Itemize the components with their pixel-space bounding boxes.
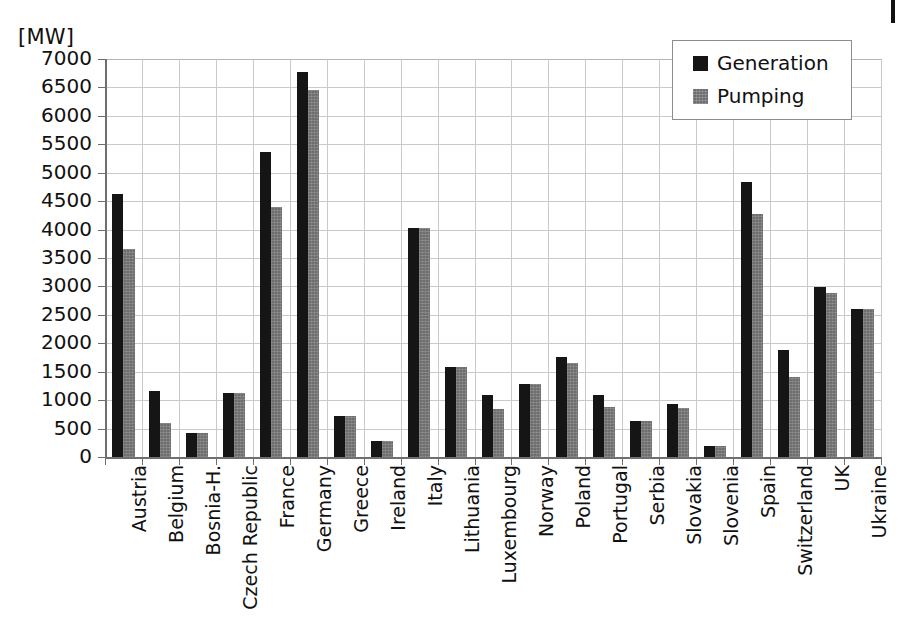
legend-label-generation: Generation bbox=[717, 53, 829, 73]
bar-group bbox=[260, 59, 282, 457]
x-axis-label-text: Poland bbox=[574, 465, 593, 528]
x-axis-label-text: Italy bbox=[426, 465, 445, 506]
x-axis-tick bbox=[659, 457, 660, 465]
bar-group bbox=[223, 59, 245, 457]
legend-item-generation: Generation bbox=[693, 53, 829, 73]
bar-group bbox=[556, 59, 578, 457]
chart-container: [MW] 70006500600055005000450040003500300… bbox=[0, 0, 906, 641]
x-axis-tick bbox=[770, 457, 771, 465]
bar-pumping bbox=[530, 384, 541, 457]
bar-generation bbox=[371, 441, 382, 457]
x-axis-tick bbox=[290, 457, 291, 465]
x-axis-label-text: Lithuania bbox=[463, 465, 482, 553]
bar-pumping bbox=[493, 409, 504, 457]
bar-generation bbox=[704, 446, 715, 457]
bar-generation bbox=[334, 416, 345, 458]
x-axis-label-text: Switzerland bbox=[796, 465, 815, 576]
y-axis-tick-label: 2500 bbox=[0, 304, 92, 324]
y-axis-tick-label: 500 bbox=[0, 418, 92, 438]
bar-generation bbox=[223, 393, 234, 457]
x-axis-label-text: Slovenia bbox=[722, 465, 741, 546]
x-axis-label-text: Ukraine bbox=[870, 465, 889, 538]
bar-group bbox=[408, 59, 430, 457]
bar-pumping bbox=[123, 249, 134, 457]
bar-generation bbox=[593, 395, 604, 457]
bar-pumping bbox=[715, 446, 726, 457]
x-axis-label-text: Portugal bbox=[611, 465, 630, 544]
gridline-vertical bbox=[881, 59, 882, 457]
bar-generation bbox=[186, 433, 197, 457]
x-axis-label-text: Belgium bbox=[167, 465, 186, 543]
chart-legend: Generation Pumping bbox=[672, 40, 852, 120]
x-axis-label-text: Czech Republic bbox=[241, 465, 260, 610]
bar-group bbox=[149, 59, 171, 457]
x-axis-tick bbox=[401, 457, 402, 465]
bar-pumping bbox=[567, 363, 578, 457]
bar-generation bbox=[408, 228, 419, 457]
y-axis-tick-label: 3500 bbox=[0, 247, 92, 267]
bar-pumping bbox=[308, 90, 319, 457]
bar-generation bbox=[112, 194, 123, 457]
bar-group bbox=[334, 59, 356, 457]
y-axis-tick-label: 4500 bbox=[0, 190, 92, 210]
y-axis-tick-label: 4000 bbox=[0, 219, 92, 239]
bar-pumping bbox=[678, 408, 689, 457]
bar-generation bbox=[630, 421, 641, 457]
bar-group bbox=[186, 59, 208, 457]
bar-group bbox=[112, 59, 134, 457]
x-axis-category-labels: AustriaBelgiumBosnia-H.Czech RepublicFra… bbox=[105, 465, 881, 641]
bar-group bbox=[851, 59, 873, 457]
x-axis-tick bbox=[253, 457, 254, 465]
x-axis-tick bbox=[475, 457, 476, 465]
legend-swatch-generation-icon bbox=[693, 56, 708, 71]
x-axis-label-text: Spain bbox=[759, 465, 778, 518]
bar-pumping bbox=[456, 367, 467, 457]
y-axis-tick-label: 3000 bbox=[0, 275, 92, 295]
y-axis-tick-label: 6500 bbox=[0, 76, 92, 96]
x-axis-label-text: Ireland bbox=[389, 465, 408, 531]
x-axis-tick bbox=[733, 457, 734, 465]
bar-group bbox=[445, 59, 467, 457]
bar-generation bbox=[482, 395, 493, 457]
x-axis-tick bbox=[585, 457, 586, 465]
bar-pumping bbox=[826, 293, 837, 457]
bar-pumping bbox=[604, 407, 615, 457]
bar-generation bbox=[519, 384, 530, 457]
x-axis-tick bbox=[548, 457, 549, 465]
legend-item-pumping: Pumping bbox=[693, 86, 805, 106]
x-axis-tick bbox=[142, 457, 143, 465]
x-axis-label-text: UK bbox=[833, 465, 852, 491]
y-axis-tick-label: 1500 bbox=[0, 361, 92, 381]
x-axis-label-text: Austria bbox=[130, 465, 149, 532]
bar-pumping bbox=[641, 421, 652, 457]
y-axis-tick-label: 0 bbox=[0, 446, 92, 466]
x-axis-label-text: Slovakia bbox=[685, 465, 704, 545]
legend-label-pumping: Pumping bbox=[717, 86, 805, 106]
bar-pumping bbox=[345, 416, 356, 458]
bar-group bbox=[482, 59, 504, 457]
y-axis-tick-label: 6000 bbox=[0, 105, 92, 125]
bar-group bbox=[519, 59, 541, 457]
page-scan-mark bbox=[891, 0, 895, 23]
x-axis-tick bbox=[844, 457, 845, 465]
bar-generation bbox=[149, 391, 160, 457]
x-axis-line bbox=[105, 457, 882, 459]
x-axis-label-text: Luxembourg bbox=[500, 465, 519, 583]
x-axis-label-text: France bbox=[278, 465, 297, 528]
bar-generation bbox=[556, 357, 567, 457]
y-axis-tick-label: 5500 bbox=[0, 133, 92, 153]
bar-generation bbox=[851, 309, 862, 457]
bar-generation bbox=[814, 287, 825, 457]
legend-swatch-pumping-icon bbox=[693, 89, 708, 104]
bar-pumping bbox=[234, 393, 245, 457]
x-axis-tick bbox=[364, 457, 365, 465]
bar-group bbox=[297, 59, 319, 457]
bar-generation bbox=[260, 152, 271, 457]
bar-pumping bbox=[197, 433, 208, 457]
y-axis-tick-label: 2000 bbox=[0, 332, 92, 352]
bar-pumping bbox=[789, 377, 800, 457]
x-axis-tick bbox=[511, 457, 512, 465]
x-axis-tick bbox=[179, 457, 180, 465]
bar-pumping bbox=[160, 423, 171, 457]
x-axis-tick bbox=[327, 457, 328, 465]
